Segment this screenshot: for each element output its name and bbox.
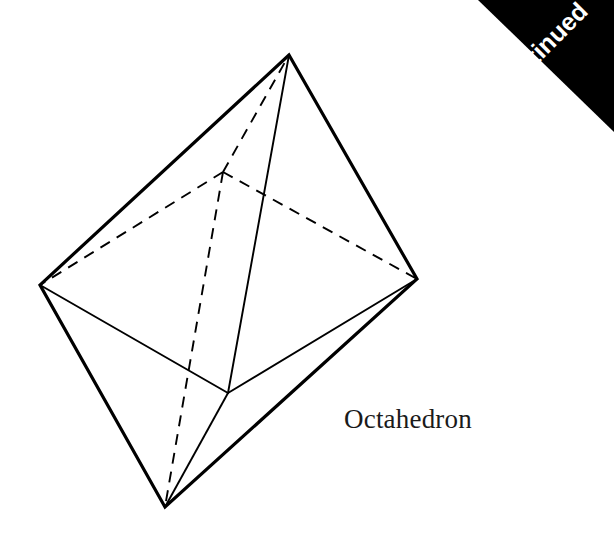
inner-edge-right-front xyxy=(228,279,417,393)
figure-page: ontinued Octahedron xyxy=(0,0,614,538)
octahedron-outline xyxy=(40,55,417,507)
inner-edge-left-front xyxy=(40,285,228,393)
inner-edge-top-front xyxy=(228,55,289,393)
hidden-edge-back-bottom xyxy=(165,172,223,507)
corner-tab-triangle xyxy=(478,0,614,132)
figure-caption: Octahedron xyxy=(344,406,472,433)
continued-corner-tab: ontinued xyxy=(454,0,614,140)
outline-path xyxy=(40,55,417,507)
hidden-edge-back-left xyxy=(40,172,223,285)
octahedron-visible-inner-edges xyxy=(40,55,417,507)
inner-edge-bottom-front xyxy=(165,393,228,507)
octahedron-hidden-edges xyxy=(40,55,417,507)
